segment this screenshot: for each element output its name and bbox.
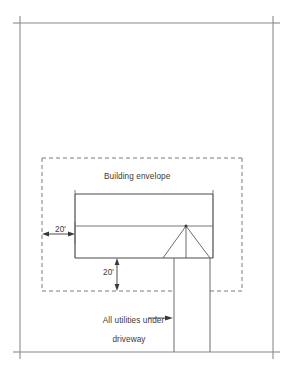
entry-triangle <box>163 225 210 259</box>
setback-bottom-dimension-label: 20' <box>103 268 114 278</box>
dim-left-arrowhead-east-icon <box>68 232 75 237</box>
property-border <box>20 23 273 352</box>
site-plan-diagram: Building envelope 20' 20' All utilities … <box>0 0 289 374</box>
dim-bottom-arrowhead-south-icon <box>115 284 120 291</box>
utilities-note-line-1: All utilities under <box>103 316 165 325</box>
dimension-setback-bottom <box>115 258 120 291</box>
triangle-right-edge <box>186 226 210 258</box>
building-envelope-label: Building envelope <box>104 172 170 182</box>
triangle-apex-node <box>185 225 188 228</box>
driveway <box>174 258 210 352</box>
utilities-note-label: All utilities under driveway <box>89 306 169 364</box>
utilities-note-line-2: driveway <box>89 335 169 345</box>
dim-bottom-arrowhead-north-icon <box>115 258 120 265</box>
triangle-left-edge <box>163 226 186 258</box>
dim-left-arrowhead-west-icon <box>42 232 49 237</box>
setback-left-dimension-label: 20' <box>55 225 66 235</box>
building-footprint <box>75 190 213 258</box>
